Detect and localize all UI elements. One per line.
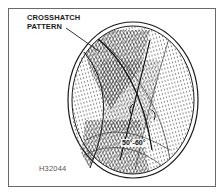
callout-label: CROSSHATCH PATTERN [27, 14, 80, 31]
figure-id: H32044 [39, 164, 66, 173]
callout-line-2: PATTERN [27, 23, 80, 32]
angle-label: 50°-60° [121, 139, 147, 147]
